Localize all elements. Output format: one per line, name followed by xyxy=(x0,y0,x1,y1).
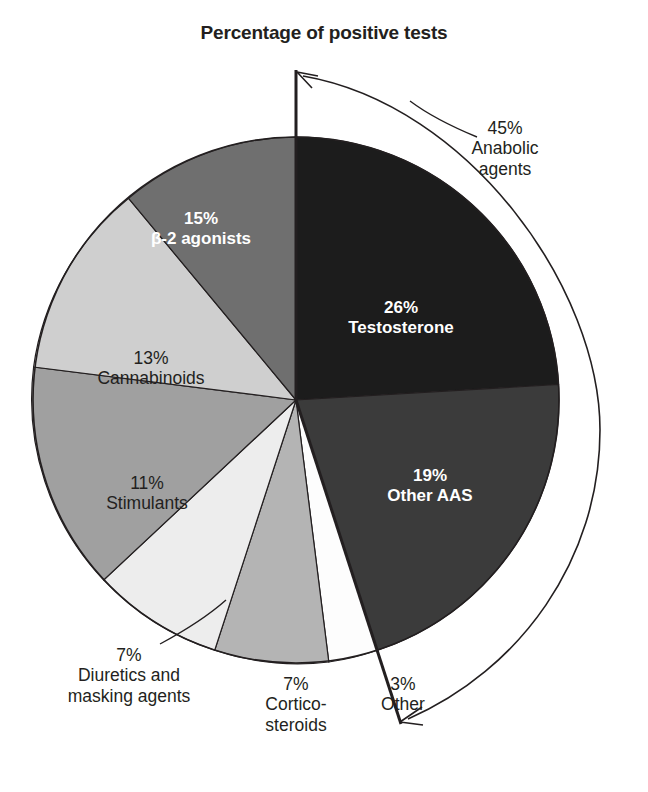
slice-percent-beta2-agonists: 15% xyxy=(106,209,296,229)
annotation-name-anabolic-agents-line2: agents xyxy=(430,159,580,179)
bracket-arrowhead-top xyxy=(297,72,318,88)
slice-name-diuretics-line1: Diuretics and xyxy=(26,665,232,685)
slice-name-testosterone: Testosterone xyxy=(296,318,506,338)
slice-label-corticosteroids: 7% Cortico- steroids xyxy=(232,674,360,735)
slice-label-cannabinoids: 13% Cannabinoids xyxy=(56,348,246,389)
slice-name-corticosteroids-line1: Cortico- xyxy=(232,694,360,714)
slice-percent-diuretics: 7% xyxy=(26,645,232,665)
pie-chart-figure: Percentage of positive tests xyxy=(0,0,648,792)
slice-percent-other: 3% xyxy=(348,674,458,694)
slice-percent-testosterone: 26% xyxy=(296,298,506,318)
slice-label-diuretics: 7% Diuretics and masking agents xyxy=(26,645,232,706)
slice-label-other-aas: 19% Other AAS xyxy=(330,466,530,505)
slice-name-diuretics-line2: masking agents xyxy=(26,686,232,706)
annotation-percent-anabolic-agents: 45% xyxy=(430,118,580,138)
annotation-label-anabolic-agents: 45% Anabolic agents xyxy=(430,118,580,179)
slice-percent-corticosteroids: 7% xyxy=(232,674,360,694)
slice-label-other: 3% Other xyxy=(348,674,458,715)
slice-percent-stimulants: 11% xyxy=(62,473,232,493)
slice-name-cannabinoids: Cannabinoids xyxy=(56,368,246,388)
slice-percent-other-aas: 19% xyxy=(330,466,530,486)
slice-name-stimulants: Stimulants xyxy=(62,493,232,513)
slice-label-testosterone: 26% Testosterone xyxy=(296,298,506,337)
slice-label-stimulants: 11% Stimulants xyxy=(62,473,232,514)
annotation-name-anabolic-agents-line1: Anabolic xyxy=(430,138,580,158)
slice-name-other-aas: Other AAS xyxy=(330,486,530,506)
slice-name-corticosteroids-line2: steroids xyxy=(232,715,360,735)
slice-label-beta2-agonists: 15% β-2 agonists xyxy=(106,209,296,248)
slice-name-other: Other xyxy=(348,694,458,714)
slice-percent-cannabinoids: 13% xyxy=(56,348,246,368)
slice-name-beta2-agonists: β-2 agonists xyxy=(106,229,296,249)
